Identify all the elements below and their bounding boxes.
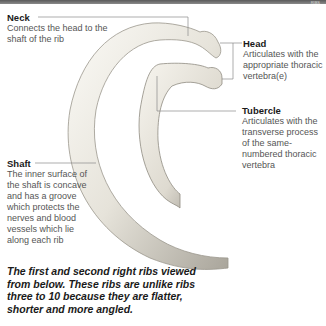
label-neck: Neck Connects the head to the shaft of t… (7, 12, 117, 45)
tubercle-title: Tubercle (242, 105, 326, 116)
label-tubercle: Tubercle Articulates with the transverse… (242, 105, 326, 171)
shaft-title: Shaft (7, 158, 89, 169)
shaft-desc: The inner surface of the shaft is concav… (7, 169, 89, 246)
neck-desc: Connects the head to the shaft of the ri… (7, 23, 117, 45)
neck-title: Neck (7, 12, 117, 23)
label-head: Head Articulates with the appropriate th… (243, 38, 325, 82)
head-title: Head (243, 38, 325, 49)
head-desc: Articulates with the appropriate thoraci… (243, 49, 325, 82)
second-rib (139, 63, 222, 208)
tubercle-desc: Articulates with the transverse process … (242, 116, 326, 171)
figure-caption: The first and second right ribs viewed f… (7, 265, 197, 315)
label-shaft: Shaft The inner surface of the shaft is … (7, 158, 89, 246)
